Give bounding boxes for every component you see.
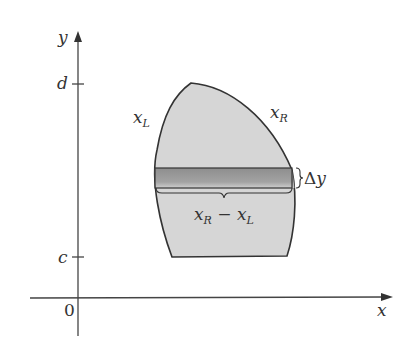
tick-label-d: d xyxy=(57,75,68,92)
y-axis-arrow-icon xyxy=(74,31,82,42)
height-brace xyxy=(296,168,303,188)
region-diagram: y x 0 d c xL xR Δy xR − xL xyxy=(0,0,408,359)
delta-y-label: Δy xyxy=(304,170,326,187)
origin-label: 0 xyxy=(64,302,75,319)
diagram-canvas xyxy=(0,0,408,359)
x-axis-label: x xyxy=(377,302,387,319)
strip-width-label: xR − xL xyxy=(194,206,254,226)
tick-label-c: c xyxy=(58,249,68,266)
x-axis xyxy=(30,297,384,298)
left-curve-label: xL xyxy=(133,109,150,129)
right-curve-label: xR xyxy=(270,104,288,124)
y-axis-label: y xyxy=(58,29,68,46)
